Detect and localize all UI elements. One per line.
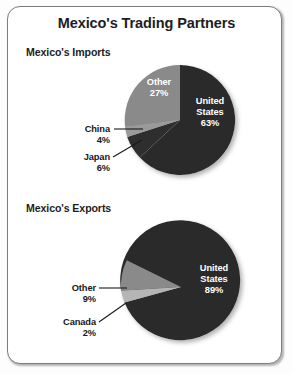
imports-label-us-line2: States (196, 107, 223, 117)
imports-value-united-states: 63% (182, 118, 238, 129)
exports-value-united-states: 89% (186, 285, 242, 296)
exports-label-canada-name: Canada (63, 317, 96, 327)
imports-label-other: Other 27% (133, 77, 185, 99)
exports-label-us-line2: States (200, 274, 227, 284)
imports-label-us-line1: United (196, 96, 224, 106)
page-title: Mexico's Trading Partners (0, 15, 293, 31)
imports-label-other-name: Other (147, 77, 171, 87)
imports-label-china-name: China (85, 124, 110, 134)
exports-label-us-line1: United (200, 263, 228, 273)
infographic-page: Mexico's Trading Partners Mexico's Impor… (0, 0, 293, 374)
exports-label-united-states: United States 89% (186, 263, 242, 297)
exports-label-canada: Canada 2% (38, 317, 96, 339)
imports-value-china: 4% (58, 135, 110, 146)
imports-label-united-states: United States 63% (182, 96, 238, 130)
imports-label-japan: Japan 6% (58, 152, 110, 174)
exports-label-other: Other 9% (44, 283, 96, 305)
exports-chart-heading: Mexico's Exports (26, 202, 111, 214)
exports-label-other-name: Other (72, 283, 96, 293)
exports-value-canada: 2% (38, 328, 96, 339)
imports-chart-heading: Mexico's Imports (26, 46, 111, 58)
imports-value-japan: 6% (58, 163, 110, 174)
imports-label-china: China 4% (58, 124, 110, 146)
imports-label-japan-name: Japan (84, 152, 110, 162)
imports-value-other: 27% (133, 88, 185, 99)
exports-value-other: 9% (44, 294, 96, 305)
